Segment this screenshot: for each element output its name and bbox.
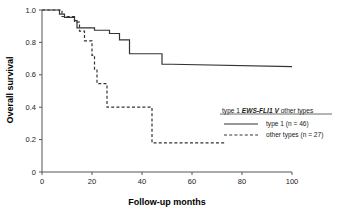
legend: type 1 EWS-FLI1 V other typestype 1 (n =… xyxy=(220,107,332,139)
survival-chart-figure: 00.20.40.60.81.0 020406080100 type 1 EWS… xyxy=(0,0,337,211)
legend-label-type1: type 1 (n = 46) xyxy=(266,120,309,128)
x-axis-tick-label: 0 xyxy=(40,177,44,186)
y-axis-tick-label: 0 xyxy=(32,168,36,177)
series-layer xyxy=(42,10,292,143)
x-axis-tick-label: 40 xyxy=(138,177,146,186)
kaplan-meier-plot: 00.20.40.60.81.0 020406080100 type 1 EWS… xyxy=(0,0,337,211)
y-axis-title: Overall survival xyxy=(5,56,15,123)
x-axis-tick-label: 60 xyxy=(188,177,196,186)
x-axis-tick-label: 20 xyxy=(88,177,96,186)
y-axis-tick-label: 0.8 xyxy=(26,38,36,47)
legend-label-other-types: other types (n = 27) xyxy=(266,131,323,139)
y-axis-tick-label: 0.4 xyxy=(26,103,36,112)
x-axis-tick-label: 100 xyxy=(286,177,299,186)
y-axis-tick-label: 0.6 xyxy=(26,70,36,79)
x-axis: 020406080100 xyxy=(40,172,298,186)
series-curve-other-types xyxy=(42,10,225,143)
x-axis-title: Follow-up months xyxy=(128,197,205,207)
x-axis-tick-label: 80 xyxy=(238,177,246,186)
y-axis: 00.20.40.60.81.0 xyxy=(26,6,42,177)
series-curve-type1 xyxy=(42,10,292,67)
y-axis-tick-label: 0.2 xyxy=(26,135,36,144)
y-axis-tick-label: 1.0 xyxy=(26,6,36,15)
